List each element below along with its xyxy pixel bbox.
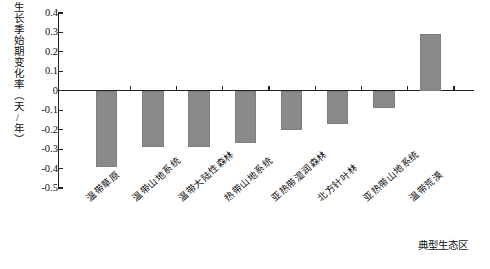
bar xyxy=(142,91,163,147)
y-axis-tick xyxy=(58,32,63,33)
y-axis-tick-label: -0.4 xyxy=(24,164,58,175)
x-axis-tick xyxy=(222,86,223,91)
y-axis-tick-label: -0.5 xyxy=(24,183,58,194)
bar xyxy=(420,34,441,90)
y-axis-tick-label: -0.2 xyxy=(24,125,58,136)
x-axis-tick xyxy=(361,86,362,91)
x-axis-title: 典型生态区 xyxy=(418,240,468,252)
y-axis-tick-label: 0 xyxy=(24,86,58,97)
y-axis-tick xyxy=(58,187,63,188)
bar xyxy=(327,91,348,124)
y-axis-tick xyxy=(58,168,63,169)
y-axis-tick xyxy=(58,51,63,52)
y-axis-tick-label: -0.3 xyxy=(24,144,58,155)
y-axis-tick xyxy=(58,12,63,13)
y-axis-tick-label: -0.1 xyxy=(24,105,58,116)
y-axis-tick xyxy=(58,149,63,150)
bar xyxy=(281,91,302,130)
y-axis-tick xyxy=(58,129,63,130)
y-axis-tick xyxy=(58,110,63,111)
bar-chart: 生长季始期变化率（天/年） 0.40.30.20.10-0.1-0.2-0.3-… xyxy=(0,0,490,269)
bar xyxy=(96,91,117,167)
x-axis-tick xyxy=(176,86,177,91)
x-axis-tick xyxy=(268,86,269,91)
y-axis-tick-label: 0.3 xyxy=(24,27,58,38)
bar xyxy=(188,91,209,147)
x-axis-tick xyxy=(407,86,408,91)
y-axis-title: 生长季始期变化率（天/年） xyxy=(4,2,24,192)
y-axis-tick-label: 0.4 xyxy=(24,8,58,19)
y-axis-spine xyxy=(58,13,59,188)
x-axis-tick xyxy=(453,86,454,91)
y-axis-tick xyxy=(58,71,63,72)
x-axis-tick xyxy=(315,86,316,91)
bar xyxy=(235,91,256,144)
x-axis-zero-line xyxy=(58,90,474,91)
y-axis-tick-labels: 0.40.30.20.10-0.1-0.2-0.3-0.4-0.5 xyxy=(22,0,58,200)
y-axis-tick-label: 0.2 xyxy=(24,47,58,58)
bar xyxy=(373,91,394,109)
y-axis-tick-label: 0.1 xyxy=(24,66,58,77)
x-axis-tick xyxy=(130,86,131,91)
